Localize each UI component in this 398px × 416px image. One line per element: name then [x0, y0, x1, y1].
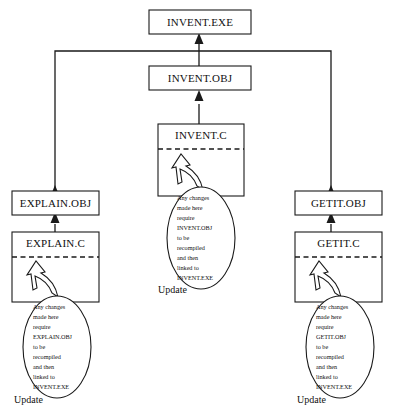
- callout-getit-line-1: made here: [316, 313, 342, 320]
- node-explain-c[interactable]: EXPLAIN.C: [12, 232, 99, 302]
- diagram-canvas: INVENT.EXE INVENT.OBJ INVENT.C Any chang…: [0, 0, 398, 416]
- callout-explain-line-0: Any changes: [33, 303, 66, 310]
- callout-getit-line-2: require: [316, 323, 334, 330]
- callout-invent-line-6: and then: [177, 254, 198, 261]
- callout-explain-line-3: EXPLAIN.OBJ: [33, 333, 73, 340]
- callout-explain-line-8: INVENT.EXE: [33, 383, 69, 390]
- callout-explain-line-6: and then: [33, 363, 54, 370]
- callout-invent-line-2: require: [177, 214, 195, 221]
- callout-explain-line-2: require: [33, 323, 51, 330]
- callout-invent-line-1: made here: [177, 204, 203, 211]
- callout-explain-line-4: to be: [33, 343, 45, 350]
- callout-getit-line-5: recompiled: [316, 353, 345, 360]
- callout-invent-c: Any changes made here require INVENT.OBJ…: [167, 187, 235, 289]
- node-invent-exe-label: INVENT.EXE: [167, 16, 233, 28]
- node-getit-c-label: GETIT.C: [317, 237, 359, 249]
- callout-getit-c: Any changes made here require GETIT.OBJ …: [306, 296, 374, 398]
- node-invent-obj[interactable]: INVENT.OBJ: [149, 66, 251, 90]
- callout-getit-line-3: GETIT.OBJ: [316, 333, 347, 340]
- callout-invent-line-5: recompiled: [177, 244, 206, 251]
- callout-getit-line-0: Any changes: [316, 303, 349, 310]
- node-invent-c-label: INVENT.C: [175, 129, 227, 141]
- callout-invent-line-3: INVENT.OBJ: [177, 224, 213, 231]
- dependency-diagram: INVENT.EXE INVENT.OBJ INVENT.C Any chang…: [0, 0, 398, 416]
- node-invent-exe[interactable]: INVENT.EXE: [149, 10, 251, 34]
- update-label-getit: Update: [297, 394, 326, 405]
- arrowhead-inventobj-to-inventexe: [195, 33, 204, 44]
- callout-getit-line-8: INVENT.EXE: [316, 383, 352, 390]
- update-label-explain: Update: [14, 394, 43, 405]
- node-getit-c[interactable]: GETIT.C: [295, 232, 382, 302]
- node-getit-obj[interactable]: GETIT.OBJ: [295, 191, 382, 215]
- callout-invent-line-8: INVENT.EXE: [177, 274, 213, 281]
- callout-invent-line-4: to be: [177, 234, 189, 241]
- callout-explain-c: Any changes made here require EXPLAIN.OB…: [23, 296, 91, 398]
- node-invent-c[interactable]: INVENT.C: [158, 124, 244, 196]
- node-getit-obj-label: GETIT.OBJ: [311, 197, 367, 209]
- node-explain-c-label: EXPLAIN.C: [26, 237, 85, 249]
- node-invent-obj-label: INVENT.OBJ: [168, 72, 233, 84]
- callout-getit-line-6: and then: [316, 363, 337, 370]
- callout-invent-line-0: Any changes: [177, 194, 210, 201]
- node-explain-obj-label: EXPLAIN.OBJ: [20, 197, 92, 209]
- callout-getit-line-4: to be: [316, 343, 328, 350]
- callout-explain-line-7: linked to: [33, 373, 55, 380]
- node-explain-obj[interactable]: EXPLAIN.OBJ: [12, 191, 99, 215]
- callout-explain-line-5: recompiled: [33, 353, 62, 360]
- callout-getit-line-7: linked to: [316, 373, 338, 380]
- update-label-invent: Update: [158, 284, 187, 295]
- arrowhead-inventc-to-inventobj: [195, 90, 204, 101]
- callout-explain-line-1: made here: [33, 313, 59, 320]
- callout-invent-line-7: linked to: [177, 264, 199, 271]
